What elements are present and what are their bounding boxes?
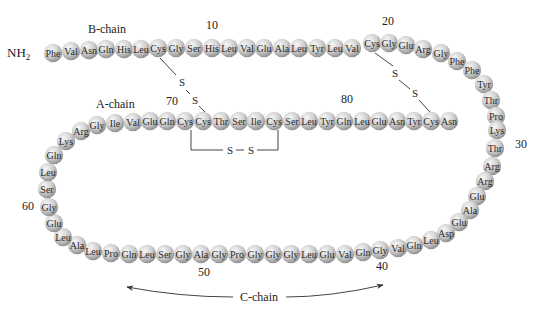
position-number-40: 40 [376,259,388,273]
residue-62-leu: Leu [39,163,57,181]
residue-label: Leu [85,246,101,257]
residue-69-glu: Glu [141,112,159,130]
residue-17-leu: Leu [326,39,344,57]
residue-label: Tyr [320,116,334,127]
residue-label: Ala [275,43,290,54]
residue-label: His [205,43,219,54]
c-chain-indicator: C-chain [127,285,383,304]
residue-74-ser: Ser [230,112,248,130]
residue-52-ser: Ser [156,245,174,263]
residue-77-ser: Ser [283,112,301,130]
residue-label: Leu [354,116,370,127]
residue-label: Gly [382,38,397,49]
residue-label: Cys [177,116,193,127]
residue-21-glu: Glu [397,36,415,54]
residue-label: Gly [212,249,227,260]
residue-label: Glu [372,116,387,127]
residue-label: Gln [99,44,114,55]
residue-label: Gly [434,48,449,59]
residue-20-gly: Gly [380,34,398,52]
residue-13-glu: Glu [255,39,273,57]
residue-label: Glu [143,116,158,127]
residue-label: Leu [327,43,343,54]
residue-41-gln: Gln [354,243,372,261]
residue-label: Thr [484,95,499,106]
residue-label: Leu [139,249,155,260]
residue-label: Val [240,43,254,54]
residue-label: Lys [490,125,505,136]
residue-30-thr: Thr [486,139,504,157]
residue-label: Gly [266,249,281,260]
residue-label: Asp [438,228,454,239]
residue-12-val: Val [238,39,256,57]
residue-68-val: Val [124,113,142,131]
residue-29-lys: Lys [488,121,506,139]
residue-label: Val [345,43,359,54]
residue-label: Ile [251,116,262,127]
residue-51-gly: Gly [174,245,192,263]
residue-60-gly: Gly [40,198,58,216]
sulfur-label: S [179,76,185,88]
disulfide-bond-b19-a85: S S [375,53,430,112]
residue-71-cys: Cys [176,112,194,130]
residue-label: Ala [70,240,85,251]
sulfur-label: S [248,144,254,156]
position-number-60: 60 [22,199,34,213]
residue-46-gly: Gly [264,245,282,263]
residue-label: Glu [470,191,485,202]
residue-label: Ala [463,205,478,216]
residue-label: Phe [450,56,466,67]
residue-59-glu: Glu [45,214,63,232]
residue-label: Cys [150,43,166,54]
residue-48-pro: Pro [228,245,246,263]
residue-27-thr: Thr [482,91,500,109]
residue-label: Ser [40,184,54,195]
residue-56-leu: Leu [84,242,102,260]
residue-3-asn: Asn [80,41,98,59]
residue-75-ile: Ile [247,112,265,130]
sulfur-label: S [412,87,418,99]
residue-67-ile: Ile [106,114,124,132]
residue-label: Leu [133,44,149,55]
residue-label: Leu [301,249,317,260]
residue-label: Gln [356,247,371,258]
position-number-80: 80 [341,92,353,106]
residue-82-glu: Glu [370,112,388,130]
residue-label: Gly [248,249,263,260]
residue-label: Glu [320,249,335,260]
residue-chain: PheValAsnGlnHisLeuCysGlySerHisLeuValGluA… [38,34,506,263]
residue-73-thr: Thr [212,112,230,130]
residue-6-leu: Leu [132,40,150,58]
residue-25-phe: Phe [463,61,481,79]
residue-39-val: Val [389,239,407,257]
residue-label: Gly [373,245,388,256]
residue-4-gln: Gln [97,40,115,58]
residue-label: Ser [187,43,201,54]
residue-label: Leu [423,235,439,246]
residue-40-gly: Gly [371,241,389,259]
residue-label: Tyr [310,43,324,54]
position-number-20: 20 [382,14,394,28]
residue-label: Gly [284,249,299,260]
residue-label: Phe [465,65,481,76]
residue-label: Ser [285,116,299,127]
residue-label: Gly [169,43,184,54]
residue-label: Glu [452,217,467,228]
residue-label: Pro [489,111,503,122]
residue-61-ser: Ser [38,180,56,198]
residue-37-leu: Leu [422,231,440,249]
residue-22-arg: Arg [414,40,432,58]
residue-66-gly: Gly [88,116,106,134]
sulfur-label: S [192,94,198,106]
residue-10-his: His [203,39,221,57]
residue-label: Asn [81,45,97,56]
residue-label: Val [64,46,78,57]
residue-55-pro: Pro [102,244,120,262]
residue-26-tyr: Tyr [475,75,493,93]
residue-label: Leu [221,43,237,54]
residue-16-tyr: Tyr [308,39,326,57]
residue-label: Ser [158,249,172,260]
residue-label: Glu [257,43,272,54]
b-chain-label: B-chain [88,22,126,36]
residue-78-leu: Leu [300,112,318,130]
